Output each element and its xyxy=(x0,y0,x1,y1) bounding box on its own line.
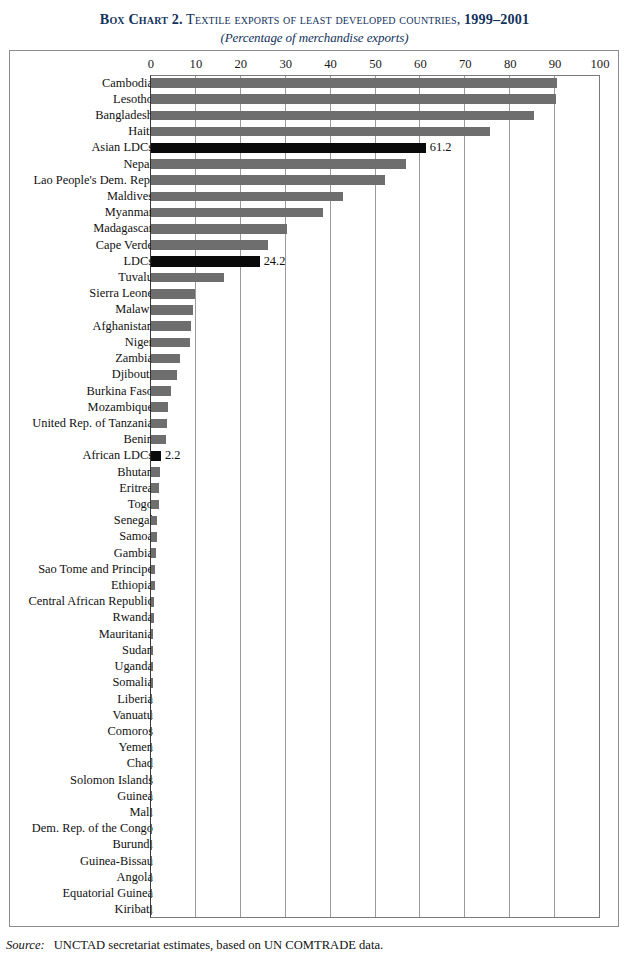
category-label: Benin xyxy=(123,432,153,446)
category-label: Afghanistan xyxy=(92,319,153,333)
category-label: Angola xyxy=(117,870,153,884)
bar-solomon-islands xyxy=(151,775,152,785)
category-label: Haiti xyxy=(128,124,153,138)
category-label: Asian LDCs xyxy=(91,140,153,154)
bar-row: Sierra Leone xyxy=(0,286,629,302)
x-axis-tick-labels: 0102030405060708090100 xyxy=(0,57,629,73)
bar-row: Guinea-Bissau xyxy=(0,853,629,869)
bar-afghanistan xyxy=(151,321,191,331)
bar-row: Bhutan xyxy=(0,464,629,480)
bar-row: Rwanda xyxy=(0,610,629,626)
category-label: LDCs xyxy=(123,254,153,268)
bar-row: Somalia xyxy=(0,675,629,691)
bar-row: Gambia xyxy=(0,545,629,561)
category-label: Guinea-Bissau xyxy=(80,854,153,868)
category-label: Mauritania xyxy=(99,627,153,641)
bar-row: Maldives xyxy=(0,188,629,204)
category-label: Sao Tome and Principe xyxy=(38,562,153,576)
x-axis-tick-40: 40 xyxy=(324,57,337,72)
bar-central-african-republic xyxy=(151,597,154,607)
category-label: Dem. Rep. of the Congo xyxy=(32,821,153,835)
bar-cape-verde xyxy=(151,240,268,250)
bar-row: Sao Tome and Principe xyxy=(0,561,629,577)
category-label: Nepal xyxy=(123,157,153,171)
bar-united-rep-of-tanzania xyxy=(151,419,167,429)
bar-bhutan xyxy=(151,467,160,477)
category-label: Yemen xyxy=(118,740,153,754)
bar-row: Myanmar xyxy=(0,205,629,221)
bar-row: Angola xyxy=(0,869,629,885)
category-label: Burundi xyxy=(112,837,153,851)
bar-benin xyxy=(151,435,166,445)
bar-row: Cambodia xyxy=(0,75,629,91)
category-label: Sierra Leone xyxy=(89,286,153,300)
chart-title-caps: Textile exports of least developed count… xyxy=(186,11,460,27)
bar-row: Senegal xyxy=(0,513,629,529)
bar-uganda xyxy=(151,662,153,672)
bar-tuvalu xyxy=(151,273,224,283)
bar-row: Equatorial Guinea xyxy=(0,886,629,902)
bar-row: Solomon Islands xyxy=(0,772,629,788)
bar-row: Malawi xyxy=(0,302,629,318)
bar-zambia xyxy=(151,354,180,364)
x-axis-tick-10: 10 xyxy=(190,57,203,72)
x-axis-tick-100: 100 xyxy=(591,57,610,72)
page-title: Box Chart 2. Textile exports of least de… xyxy=(0,11,629,28)
bar-sierra-leone xyxy=(151,289,195,299)
category-label: Togo xyxy=(128,497,153,511)
bar-mozambique xyxy=(151,402,168,412)
x-axis-tick-90: 90 xyxy=(549,57,562,72)
x-axis-tick-80: 80 xyxy=(504,57,517,72)
bar-row: Madagascar xyxy=(0,221,629,237)
bar-african-ldcs xyxy=(151,451,161,461)
bar-asian-ldcs xyxy=(151,143,426,153)
bar-row: African LDCs2.2 xyxy=(0,448,629,464)
category-label: Comoros xyxy=(108,724,153,738)
bar-burundi xyxy=(151,840,152,850)
bar-cambodia xyxy=(151,78,557,88)
bar-myanmar xyxy=(151,208,323,218)
bar-row: Liberia xyxy=(0,691,629,707)
category-label: Senegal xyxy=(114,513,153,527)
bar-ethiopia xyxy=(151,581,155,591)
bar-mali xyxy=(151,808,152,818)
category-label: Burkina Faso xyxy=(87,384,153,398)
bar-lao-people-s-dem-rep xyxy=(151,175,385,185)
bar-row: Mali xyxy=(0,805,629,821)
bar-samoa xyxy=(151,532,157,542)
bar-row: Lao People's Dem. Rep. xyxy=(0,172,629,188)
bar-row: Kiribati xyxy=(0,902,629,918)
category-label: Madagascar xyxy=(93,221,153,235)
bar-sao-tome-and-principe xyxy=(151,565,155,575)
bar-row: Mauritania xyxy=(0,626,629,642)
x-axis-tick-60: 60 xyxy=(414,57,427,72)
bar-row: Cape Verde xyxy=(0,237,629,253)
source-text: UNCTAD secretariat estimates, based on U… xyxy=(54,938,384,952)
category-label: Gambia xyxy=(114,546,153,560)
bar-vanuatu xyxy=(151,710,152,720)
bar-value-label: 61.2 xyxy=(430,140,452,154)
bar-djibouti xyxy=(151,370,177,380)
category-label: Central African Republic xyxy=(28,594,153,608)
bar-malawi xyxy=(151,305,193,315)
category-label: Maldives xyxy=(107,189,153,203)
category-label: Mozambique xyxy=(88,400,153,414)
bar-row: Ethiopia xyxy=(0,578,629,594)
category-label: Vanuatu xyxy=(112,708,153,722)
category-label: Myanmar xyxy=(105,205,153,219)
category-label: Guinea xyxy=(117,789,153,803)
bar-senegal xyxy=(151,516,157,526)
category-label: Malawi xyxy=(115,302,153,316)
bar-gambia xyxy=(151,548,156,558)
bar-row: Lesotho xyxy=(0,91,629,107)
bar-row: Uganda xyxy=(0,659,629,675)
bar-comoros xyxy=(151,727,152,737)
chart-subtitle: (Percentage of merchandise exports) xyxy=(0,30,629,46)
bar-row: Bangladesh xyxy=(0,107,629,123)
bar-row: Eritrea xyxy=(0,480,629,496)
bar-sudan xyxy=(151,646,153,656)
bar-row: Burkina Faso xyxy=(0,383,629,399)
category-label: Cape Verde xyxy=(96,238,153,252)
bar-row: Comoros xyxy=(0,723,629,739)
category-label: Zambia xyxy=(115,351,153,365)
